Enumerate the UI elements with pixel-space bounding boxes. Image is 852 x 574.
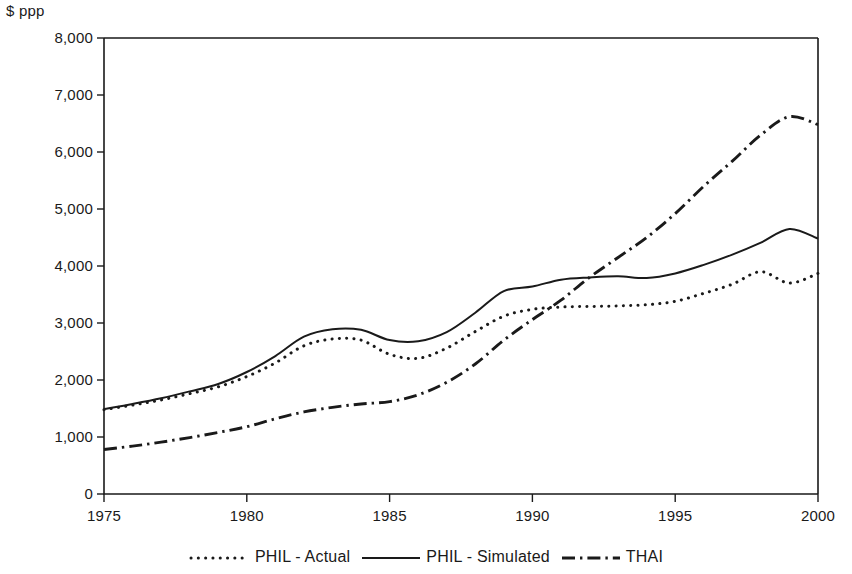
- plot-frame: [104, 38, 818, 494]
- chart-legend: PHIL - ActualPHIL - SimulatedTHAI: [0, 549, 852, 565]
- dash-dot-line-icon: [560, 550, 622, 564]
- y-axis-tick-label: 3,000: [9, 315, 93, 330]
- legend-entry: THAI: [560, 549, 663, 565]
- series-line-1: [104, 229, 818, 409]
- axis-group: [97, 38, 818, 502]
- dotted-line-icon: [189, 550, 251, 564]
- solid-line-icon: [360, 550, 422, 564]
- y-axis-tick-label: 5,000: [9, 201, 93, 216]
- x-axis-tick-label: 1995: [640, 508, 710, 523]
- y-axis-tick-label: 1,000: [9, 429, 93, 444]
- data-series-group: [104, 116, 818, 449]
- y-axis-tick-label: 7,000: [9, 87, 93, 102]
- legend-entry: PHIL - Actual: [189, 549, 350, 565]
- legend-label: PHIL - Actual: [255, 549, 350, 565]
- series-line-0: [104, 272, 818, 410]
- legend-entry: PHIL - Simulated: [360, 549, 550, 565]
- legend-label: THAI: [626, 549, 663, 565]
- line-chart-figure: $ ppp 01,0002,0003,0004,0005,0006,0007,0…: [0, 0, 852, 574]
- plot-area-svg: [0, 0, 852, 574]
- x-axis-tick-label: 1990: [497, 508, 567, 523]
- x-axis-tick-label: 2000: [783, 508, 852, 523]
- x-axis-tick-label: 1985: [355, 508, 425, 523]
- y-axis-tick-label: 6,000: [9, 144, 93, 159]
- y-axis-tick-label: 8,000: [9, 30, 93, 45]
- y-axis-tick-label: 2,000: [9, 372, 93, 387]
- x-axis-tick-label: 1975: [69, 508, 139, 523]
- x-axis-tick-label: 1980: [212, 508, 282, 523]
- y-axis-tick-label: 0: [9, 486, 93, 501]
- series-line-2: [104, 116, 818, 449]
- y-axis-tick-label: 4,000: [9, 258, 93, 273]
- legend-label: PHIL - Simulated: [426, 549, 550, 565]
